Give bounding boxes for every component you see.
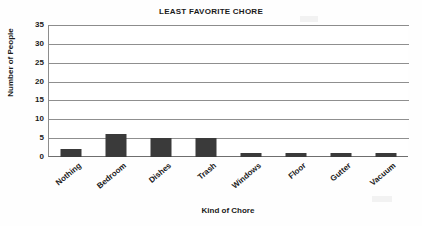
x-label-text: Dishes bbox=[147, 161, 173, 185]
scan-artifact bbox=[300, 16, 318, 22]
bar-slot-nothing bbox=[48, 25, 93, 157]
bar-slot-dishes bbox=[138, 25, 183, 157]
chart-title: LEAST FAVORITE CHORE bbox=[0, 7, 422, 16]
x-label-text: Trash bbox=[196, 161, 218, 182]
bar-slot-windows bbox=[228, 25, 273, 157]
y-tick-label: 0 bbox=[18, 153, 44, 161]
bar-floor bbox=[285, 153, 306, 157]
y-tick-label: 25 bbox=[18, 59, 44, 67]
x-label-text: Nothing bbox=[54, 161, 83, 187]
y-tick-label: 15 bbox=[18, 96, 44, 104]
x-label-text: Bedroom bbox=[95, 161, 128, 190]
bar-slot-bedroom bbox=[93, 25, 138, 157]
y-tick-label: 35 bbox=[18, 21, 44, 29]
bar-gutter bbox=[330, 153, 351, 157]
x-axis-category-labels: Nothing Bedroom Dishes Trash Windows Flo… bbox=[48, 159, 408, 203]
bar-bedroom bbox=[105, 134, 126, 157]
x-label-text: Floor bbox=[287, 161, 308, 181]
y-tick-label: 10 bbox=[18, 115, 44, 123]
bar-trash bbox=[195, 138, 216, 157]
bar-windows bbox=[240, 153, 261, 157]
bar-series bbox=[48, 25, 408, 157]
x-label-text: Vacuum bbox=[368, 161, 397, 188]
bar-slot-gutter bbox=[318, 25, 363, 157]
y-axis-tick-labels: 35 30 25 20 15 10 5 0 bbox=[14, 25, 44, 157]
y-tick-label: 20 bbox=[18, 78, 44, 86]
x-label-text: Gutter bbox=[329, 161, 353, 183]
bar-dishes bbox=[150, 138, 171, 157]
bar-slot-trash bbox=[183, 25, 228, 157]
bar-slot-vacuum bbox=[363, 25, 408, 157]
x-label-text: Windows bbox=[230, 161, 263, 190]
x-axis-title: Kind of Chore bbox=[48, 206, 408, 215]
bar-slot-floor bbox=[273, 25, 318, 157]
y-tick-label: 30 bbox=[18, 40, 44, 48]
bar-chart: LEAST FAVORITE CHORE Number of People 35… bbox=[0, 0, 422, 226]
bar-vacuum bbox=[375, 153, 396, 157]
bar-nothing bbox=[60, 149, 81, 157]
y-tick-label: 5 bbox=[18, 134, 44, 142]
